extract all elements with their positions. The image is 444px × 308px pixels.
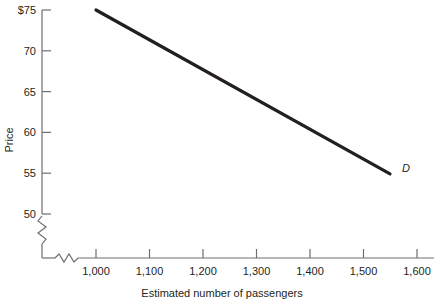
y-tick-label: 50 xyxy=(0,209,36,220)
y-axis-break-icon xyxy=(38,216,46,244)
y-tick-label: 65 xyxy=(0,86,36,97)
y-tick-label: $75 xyxy=(0,5,36,16)
demand-curve-line xyxy=(96,10,390,174)
x-axis-ticks xyxy=(96,249,417,258)
x-tick-label: 1,100 xyxy=(136,266,164,277)
price-demand-chart: $75 70 65 60 55 50 1,000 1,100 1,200 1,3… xyxy=(0,0,444,308)
y-tick-label: 55 xyxy=(0,168,36,179)
x-tick-label: 1,400 xyxy=(296,266,324,277)
y-axis-title: Price xyxy=(4,127,15,152)
y-tick-label: 70 xyxy=(0,45,36,56)
x-axis-title: Estimated number of passengers xyxy=(141,288,302,299)
x-tick-label: 1,300 xyxy=(243,266,271,277)
x-axis-break-icon xyxy=(55,254,78,262)
x-tick-label: 1,200 xyxy=(189,266,217,277)
x-tick-label: 1,600 xyxy=(403,266,431,277)
x-tick-label: 1,000 xyxy=(82,266,110,277)
demand-curve-label: D xyxy=(402,163,410,174)
x-tick-label: 1,500 xyxy=(350,266,378,277)
chart-canvas xyxy=(0,0,444,308)
y-axis-ticks xyxy=(42,10,51,214)
